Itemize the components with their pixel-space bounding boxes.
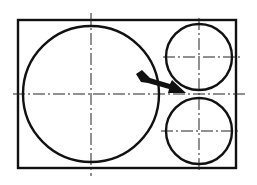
- technical-drawing: [0, 0, 257, 185]
